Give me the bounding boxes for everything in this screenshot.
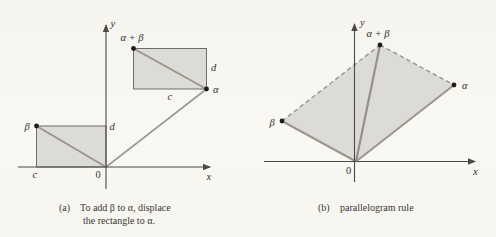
y-axis-label: y	[359, 17, 365, 28]
d-top-label: d	[211, 62, 217, 73]
x-axis-label: x	[472, 166, 478, 177]
origin-label: 0	[346, 165, 351, 176]
point-alpha	[204, 87, 209, 92]
caption-a-line2: the rectangle to α.	[83, 215, 155, 226]
beta-label: β	[269, 117, 276, 128]
caption-a-prefix: (a)	[59, 202, 70, 214]
beta-label: β	[24, 121, 31, 132]
x-axis-label: x	[206, 171, 212, 182]
figure-vector-addition: y x 0 β c d α + β c d α (a) To add β to …	[0, 0, 496, 237]
c-top-label: c	[168, 91, 173, 102]
point-alpha-plus-beta	[378, 43, 383, 48]
origin-label: 0	[96, 169, 101, 180]
panel-a: y x 0 β c d α + β c d α (a) To add β to …	[0, 0, 248, 237]
panel-a-diagram: y x 0 β c d α + β c d α (a) To add β to …	[0, 0, 248, 237]
point-alpha	[452, 83, 457, 88]
point-beta	[280, 119, 285, 124]
point-beta	[34, 124, 39, 129]
caption-b-prefix: (b)	[318, 202, 330, 214]
alpha-plus-beta-label: α + β	[366, 28, 390, 39]
panel-b-diagram: y x 0 β α α + β (b) parallelogram rule	[248, 0, 496, 237]
caption-a-line1: To add β to α, displace	[80, 202, 171, 213]
panel-b: y x 0 β α α + β (b) parallelogram rule	[248, 0, 496, 237]
alpha-label: α	[213, 84, 219, 95]
c-bottom-label: c	[33, 169, 38, 180]
alpha-plus-beta-label: α + β	[120, 32, 144, 43]
y-axis-label: y	[110, 18, 116, 29]
point-alpha-plus-beta	[131, 46, 136, 51]
alpha-label: α	[462, 80, 468, 91]
vector-alpha-line	[106, 89, 207, 167]
caption-b-text: parallelogram rule	[340, 202, 414, 213]
d-bottom-label: d	[110, 121, 116, 132]
